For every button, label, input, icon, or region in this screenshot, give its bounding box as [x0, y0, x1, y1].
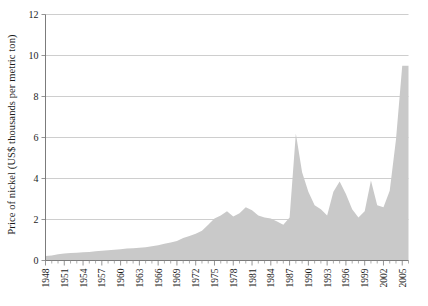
- nickel-price-area-chart: Price of nickel (US$ thousands per metri…: [0, 0, 428, 306]
- y-tick-label: 10: [29, 50, 39, 61]
- y-axis-ticks: 024681012: [29, 9, 46, 266]
- x-tick-label: 1960: [116, 268, 126, 287]
- x-tick-label: 1978: [229, 268, 239, 287]
- y-tick-label: 6: [34, 132, 39, 143]
- y-tick-label: 0: [34, 255, 39, 266]
- nickel-price-area: [46, 66, 409, 261]
- y-tick-label: 12: [29, 9, 39, 20]
- x-tick-label: 1993: [323, 268, 333, 287]
- gridlines: [46, 15, 409, 220]
- y-tick-label: 2: [34, 214, 39, 225]
- x-tick-label: 1975: [210, 268, 220, 287]
- y-tick-label: 4: [34, 173, 39, 184]
- x-tick-label: 1972: [191, 268, 201, 287]
- x-tick-label: 1984: [266, 268, 276, 287]
- chart-canvas: 024681012 194819511954195719601963196619…: [0, 0, 428, 306]
- x-tick-label: 1954: [79, 268, 89, 287]
- x-tick-label: 1990: [304, 268, 314, 287]
- area-series: [46, 66, 409, 261]
- x-tick-label: 1981: [248, 268, 258, 287]
- x-tick-label: 1957: [97, 268, 107, 287]
- x-tick-label: 1987: [285, 268, 295, 287]
- x-axis-ticks: [46, 261, 409, 266]
- y-tick-label: 8: [34, 91, 39, 102]
- x-tick-label: 1969: [172, 268, 182, 287]
- x-tick-label: 1999: [360, 268, 370, 287]
- x-tick-label: 1966: [154, 268, 164, 287]
- x-tick-label: 2002: [379, 268, 389, 287]
- x-tick-label: 1948: [41, 268, 51, 287]
- x-tick-label: 1996: [341, 268, 351, 287]
- x-tick-label: 1963: [135, 268, 145, 287]
- x-tick-label: 2005: [398, 268, 408, 287]
- x-axis-tick-labels: 1948195119541957196019631966196919721975…: [41, 268, 408, 287]
- x-tick-label: 1951: [60, 268, 70, 287]
